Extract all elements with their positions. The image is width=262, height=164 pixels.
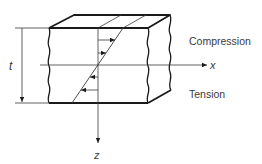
- wavy-back-right-edge: [169, 15, 171, 90]
- stress-line: [72, 28, 123, 103]
- wavy-front-right-edge: [147, 28, 149, 103]
- compression-label: Compression: [189, 35, 251, 47]
- block-side-face: [148, 15, 171, 103]
- plate-bending-stress-diagram: t x z Compression Tension: [0, 0, 262, 164]
- wavy-left-edge: [48, 28, 50, 103]
- thickness-label: t: [9, 59, 13, 73]
- thickness-dimension: t: [9, 28, 49, 103]
- tension-label: Tension: [189, 88, 225, 100]
- block-front-face: [48, 28, 149, 103]
- z-axis-label: z: [93, 149, 100, 161]
- x-axis: x: [40, 59, 216, 71]
- stress-distribution: [72, 28, 123, 103]
- z-axis: z: [93, 28, 100, 161]
- x-axis-label: x: [209, 59, 216, 71]
- block-top-face: [49, 15, 170, 28]
